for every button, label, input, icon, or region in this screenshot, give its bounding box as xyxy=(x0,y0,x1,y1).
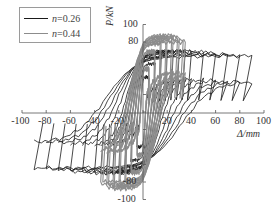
y-tick-label: 80 xyxy=(128,35,138,46)
x-tick-label: 100 xyxy=(256,115,271,126)
axes xyxy=(22,25,264,200)
x-tick-label: -40 xyxy=(87,115,100,126)
x-tick-label: 40 xyxy=(186,115,196,126)
x-tick-label: 20 xyxy=(162,115,172,126)
x-tick-label: -100 xyxy=(11,115,29,126)
legend-label: n=0.26 xyxy=(52,13,80,24)
y-tick-label: -100 xyxy=(117,193,135,204)
legend-swatch xyxy=(24,18,48,19)
y-axis-title: P/kN xyxy=(104,6,115,26)
legend-label: n=0.44 xyxy=(52,28,80,39)
legend-swatch xyxy=(24,33,48,34)
x-tick-label: 60 xyxy=(210,115,220,126)
x-tick-label: -60 xyxy=(62,115,75,126)
y-tick-label: 100 xyxy=(123,18,138,29)
x-axis-title: Δ/mm xyxy=(237,128,260,139)
x-tick-label: -20 xyxy=(111,115,124,126)
legend-item-n-0.44: n=0.44 xyxy=(24,26,80,40)
legend: n=0.26 n=0.44 xyxy=(19,7,91,43)
legend-item-n-0.26: n=0.26 xyxy=(24,11,80,25)
y-tick-label: -80 xyxy=(123,175,136,186)
x-tick-label: -80 xyxy=(38,115,51,126)
x-tick-label: 80 xyxy=(234,115,244,126)
